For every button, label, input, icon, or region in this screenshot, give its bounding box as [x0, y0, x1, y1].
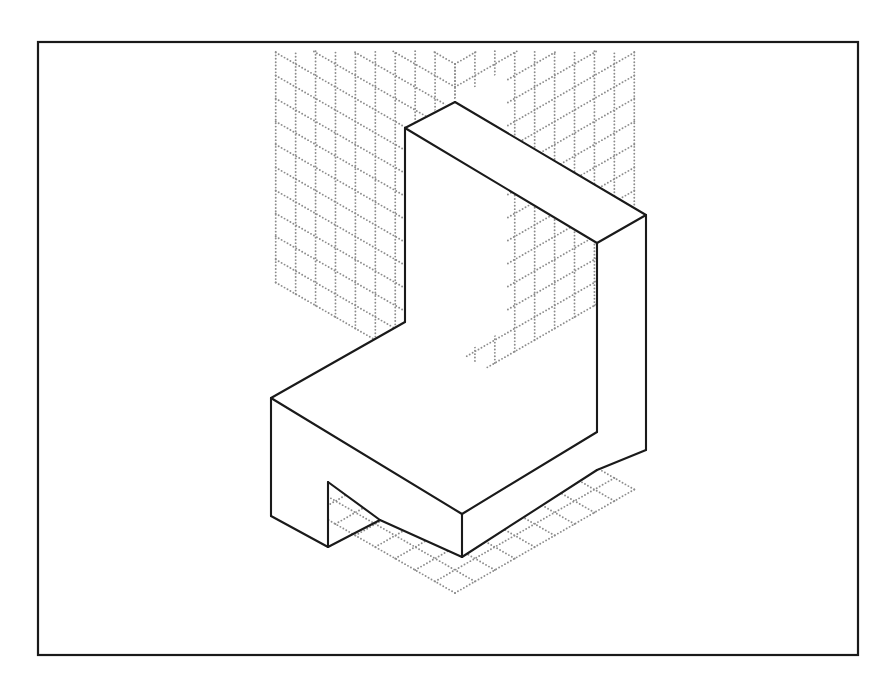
- grid-dot: [295, 188, 297, 190]
- grid-dot: [275, 214, 277, 216]
- grid-dot: [384, 91, 386, 93]
- grid-dot: [301, 67, 303, 69]
- grid-dot: [550, 509, 552, 511]
- grid-dot: [392, 533, 394, 535]
- grid-dot: [566, 160, 568, 162]
- grid-dot: [466, 355, 468, 357]
- grid-dot: [613, 157, 615, 159]
- grid-dot: [534, 275, 536, 277]
- grid-dot: [386, 539, 388, 541]
- grid-dot: [514, 208, 516, 210]
- grid-dot: [601, 185, 603, 187]
- grid-dot: [295, 144, 297, 146]
- grid-dot: [281, 216, 283, 218]
- grid-dot: [534, 115, 536, 117]
- grid-dot: [322, 263, 324, 265]
- grid-dot: [574, 52, 576, 54]
- grid-dot: [398, 215, 400, 217]
- grid-dot: [335, 211, 337, 213]
- grid-dot: [287, 219, 289, 221]
- grid-dot: [593, 176, 595, 178]
- grid-dot: [315, 196, 317, 198]
- grid-dot: [434, 92, 436, 94]
- grid-dot: [287, 81, 289, 83]
- grid-dot: [619, 152, 621, 154]
- grid-dot: [514, 327, 516, 329]
- grid-dot: [335, 180, 337, 182]
- grid-dot: [281, 124, 283, 126]
- grid-dot: [545, 56, 547, 58]
- grid-dot: [522, 254, 524, 256]
- grid-dot: [275, 149, 277, 151]
- grid-dot: [342, 91, 344, 93]
- grid-dot: [534, 92, 536, 94]
- grid-dot: [589, 77, 591, 79]
- grid-dot: [374, 220, 376, 222]
- grid-dot: [275, 105, 277, 107]
- grid-dot: [528, 274, 530, 276]
- grid-dot: [613, 110, 615, 112]
- grid-dot: [394, 188, 396, 190]
- grid-dot: [508, 554, 510, 556]
- grid-dot: [633, 75, 635, 77]
- grid-dot: [354, 256, 356, 258]
- grid-dot: [295, 147, 297, 149]
- grid-dot: [569, 112, 571, 114]
- grid-dot: [394, 290, 396, 292]
- grid-dot: [374, 309, 376, 311]
- grid-dot: [295, 252, 297, 254]
- grid-dot: [275, 121, 277, 123]
- grid-dot: [577, 153, 579, 155]
- grid-dot: [335, 201, 337, 203]
- grid-dot: [530, 521, 532, 523]
- grid-dot: [429, 561, 431, 563]
- grid-dot: [554, 148, 556, 150]
- grid-dot: [516, 257, 518, 259]
- grid-dot: [457, 590, 459, 592]
- grid-dot: [474, 350, 476, 352]
- grid-dot: [295, 117, 297, 119]
- grid-dot: [513, 535, 515, 537]
- grid-dot: [561, 508, 563, 510]
- grid-dot: [610, 498, 612, 500]
- grid-dot: [298, 111, 300, 113]
- grid-dot: [335, 140, 337, 142]
- grid-dot: [590, 491, 592, 493]
- grid-dot: [439, 584, 441, 586]
- grid-dot: [322, 125, 324, 127]
- grid-dot: [604, 184, 606, 186]
- grid-dot: [516, 234, 518, 236]
- grid-dot: [394, 144, 396, 146]
- grid-dot: [633, 126, 635, 128]
- grid-dot: [613, 120, 615, 122]
- grid-dot: [298, 295, 300, 297]
- grid-dot: [289, 198, 291, 200]
- grid-dot: [315, 233, 317, 235]
- grid-dot: [507, 332, 509, 334]
- grid-dot: [613, 56, 615, 58]
- grid-dot: [335, 241, 337, 243]
- grid-dot: [335, 194, 337, 196]
- grid-dot: [398, 560, 400, 562]
- grid-dot: [414, 118, 416, 120]
- grid-dot: [354, 182, 356, 184]
- grid-dot: [315, 250, 317, 252]
- grid-dot: [548, 308, 550, 310]
- grid-dot: [613, 144, 615, 146]
- grid-dot: [534, 281, 536, 283]
- grid-dot: [575, 499, 577, 501]
- grid-dot: [374, 261, 376, 263]
- grid-dot: [335, 225, 337, 227]
- grid-dot: [583, 310, 585, 312]
- grid-dot: [366, 104, 368, 106]
- grid-dot: [394, 59, 396, 61]
- grid-dot: [295, 286, 297, 288]
- grid-dot: [354, 239, 356, 241]
- grid-dot: [377, 525, 379, 527]
- grid-dot: [383, 541, 385, 543]
- grid-dot: [281, 239, 283, 241]
- grid-dot: [331, 222, 333, 224]
- grid-dot: [534, 271, 536, 273]
- grid-dot: [527, 519, 529, 521]
- grid-dot: [572, 501, 574, 503]
